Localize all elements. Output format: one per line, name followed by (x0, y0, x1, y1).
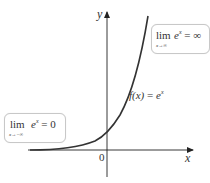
curve-label: f(x) = ex (129, 89, 164, 101)
rhs: = 0 (39, 118, 56, 130)
y-axis-label: y (97, 7, 102, 22)
exponent: x (161, 89, 164, 95)
lim-subscript: x→∞ (156, 43, 167, 48)
equals: = (144, 89, 156, 101)
limit-box-right: lim x→∞ ex = ∞ (151, 24, 210, 54)
lim-expression: ex = ∞ (174, 29, 201, 41)
lim-word: lim (156, 29, 171, 41)
lim-word: lim (10, 118, 25, 130)
function-name: f(x) (129, 89, 144, 101)
rhs: = ∞ (182, 29, 202, 41)
lim-subscript: x→−∞ (9, 132, 23, 137)
lim-expression: ex = 0 (31, 118, 56, 130)
limit-box-left: lim x→−∞ ex = 0 (4, 113, 66, 143)
origin-label: 0 (99, 151, 105, 163)
x-axis-label: x (185, 151, 190, 166)
